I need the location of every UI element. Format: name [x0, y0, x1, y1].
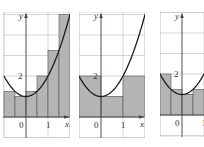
- riemann-sum-figure: y201xy201xy201x: [0, 0, 204, 147]
- riemann-rectangle: [4, 91, 15, 117]
- riemann-rectangle: [160, 74, 171, 115]
- origin-label: 0: [19, 120, 24, 130]
- y-axis-label: y: [93, 11, 98, 21]
- x-tick-label-1: 1: [46, 120, 51, 130]
- riemann-rectangle: [59, 15, 70, 118]
- panel-2: y201x: [79, 11, 145, 138]
- riemann-rectangle: [101, 97, 123, 118]
- x-tick-label-1: 1: [202, 118, 204, 128]
- riemann-rectangle: [48, 50, 59, 117]
- panel-frame: [79, 12, 145, 138]
- x-axis-label: x: [139, 119, 144, 129]
- x-tick-label-1: 1: [121, 120, 126, 130]
- origin-label: 0: [175, 118, 180, 128]
- x-axis-label: x: [64, 119, 69, 129]
- riemann-rectangle: [182, 95, 193, 116]
- y-axis-label: y: [18, 11, 23, 21]
- riemann-rectangle: [193, 89, 204, 115]
- y-axis-label: y: [174, 11, 179, 21]
- riemann-rectangle: [15, 97, 26, 118]
- y-tick-label-2: 2: [174, 69, 179, 79]
- riemann-rectangle: [123, 76, 145, 117]
- origin-label: 0: [94, 120, 99, 130]
- panel-3: y201x: [160, 11, 204, 137]
- riemann-rectangle: [37, 76, 48, 117]
- panel-1: y201x: [3, 11, 70, 138]
- y-tick-label-2: 2: [93, 71, 98, 81]
- y-tick-label-2: 2: [18, 71, 23, 81]
